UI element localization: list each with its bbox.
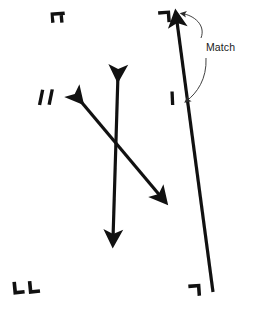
mid-tick-mark bbox=[170, 91, 174, 105]
match-label: Match bbox=[206, 41, 235, 53]
diagram-canvas: Match bbox=[0, 0, 259, 317]
figure-svg: Match bbox=[0, 0, 259, 317]
